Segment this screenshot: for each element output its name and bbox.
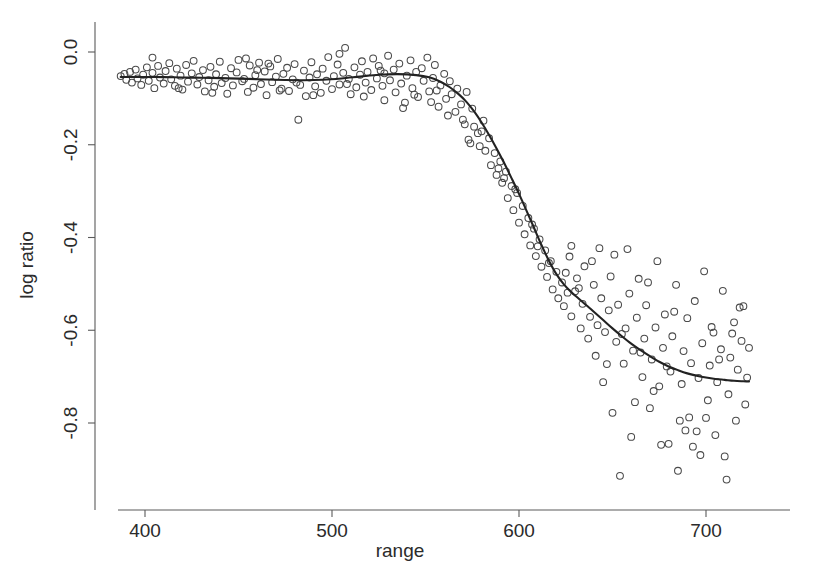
y-tick-label: -0.4: [60, 221, 81, 254]
x-tick-label: 400: [129, 520, 161, 541]
y-axis-title: log ratio: [16, 231, 37, 299]
scatter-plot-svg: 0.0-0.2-0.4-0.6-0.8 400500600700 range l…: [0, 0, 819, 583]
x-tick-label: 500: [316, 520, 348, 541]
x-tick-label: 600: [503, 520, 535, 541]
y-tick-label: -0.2: [60, 128, 81, 161]
x-axis-title: range: [376, 540, 425, 561]
x-tick-label: 700: [690, 520, 722, 541]
chart-figure: 0.0-0.2-0.4-0.6-0.8 400500600700 range l…: [0, 0, 819, 583]
y-tick-label: 0.0: [60, 39, 81, 65]
y-tick-label: -0.6: [60, 314, 81, 347]
y-tick-label: -0.8: [60, 407, 81, 440]
